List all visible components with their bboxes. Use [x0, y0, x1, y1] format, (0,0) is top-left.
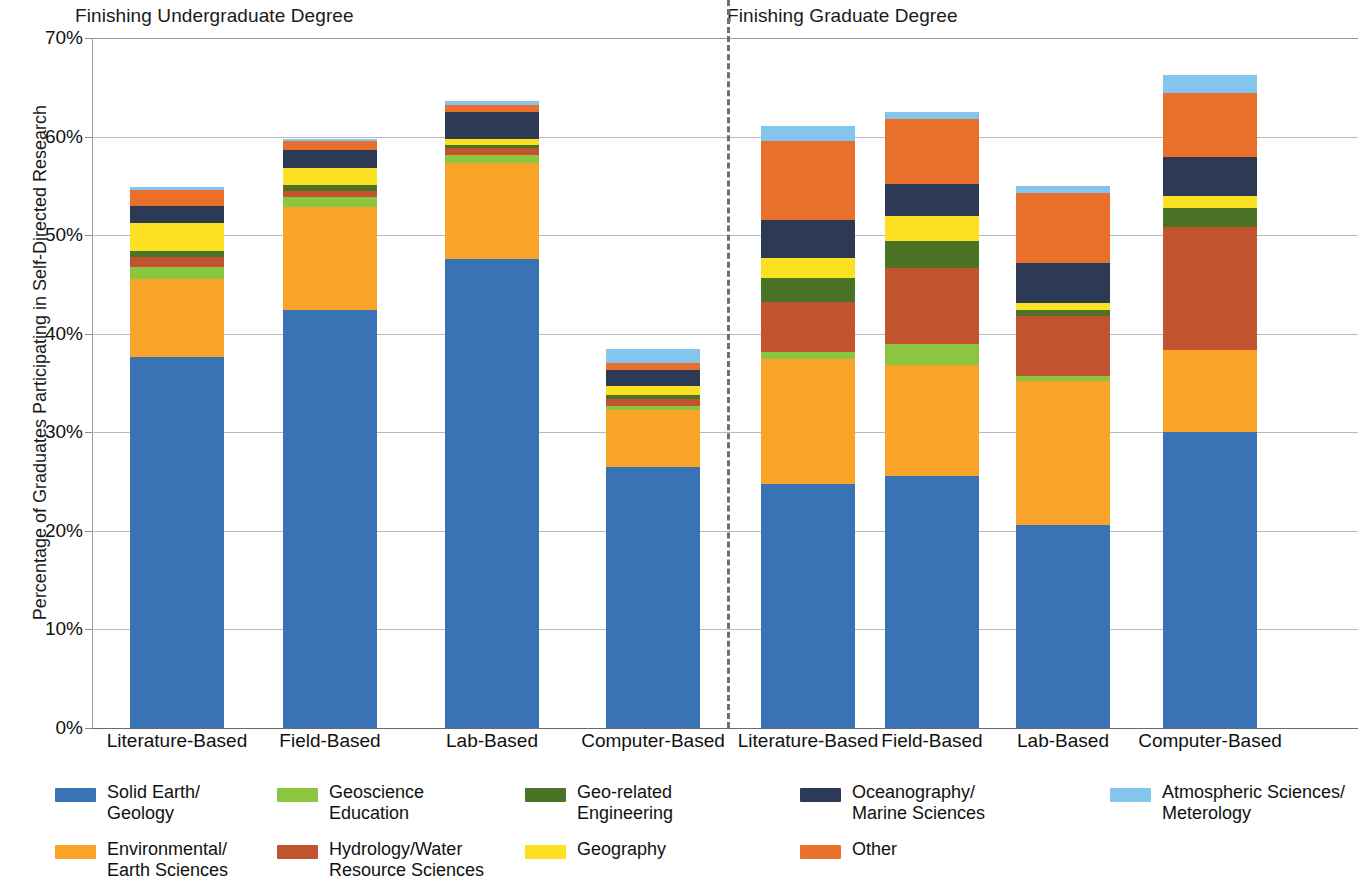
bar-segment-environmental-earth-sciences[interactable]	[283, 207, 377, 311]
bar-segment-hydrology-water-resource-sciences[interactable]	[445, 148, 539, 155]
bar-segment-oceanography-marine-sciences[interactable]	[283, 150, 377, 168]
legend-item-oceanography-marine-sciences[interactable]: Oceanography/ Marine Sciences	[800, 782, 985, 824]
bar-segment-geography[interactable]	[606, 386, 700, 395]
bar-6-field-based[interactable]	[885, 112, 979, 728]
bar-segment-solid-earth-geology[interactable]	[606, 467, 700, 728]
legend-label: Hydrology/Water Resource Sciences	[329, 839, 484, 881]
legend-label: Environmental/ Earth Sciences	[107, 839, 228, 881]
bar-segment-other[interactable]	[130, 190, 224, 206]
bar-segment-geography[interactable]	[130, 223, 224, 251]
bar-segment-oceanography-marine-sciences[interactable]	[885, 184, 979, 217]
bar-segment-solid-earth-geology[interactable]	[885, 476, 979, 728]
bar-segment-environmental-earth-sciences[interactable]	[606, 410, 700, 467]
bar-segment-other[interactable]	[445, 105, 539, 112]
bar-segment-geography[interactable]	[1163, 196, 1257, 208]
bar-segment-other[interactable]	[606, 363, 700, 370]
y-tick-label-50: 50%	[13, 224, 83, 246]
x-axis-label-8: Computer-Based	[1138, 730, 1282, 752]
bar-segment-oceanography-marine-sciences[interactable]	[606, 370, 700, 386]
y-tick-mark-40	[85, 334, 92, 335]
bar-segment-geoscience-education[interactable]	[885, 344, 979, 366]
legend-item-atmospheric-sciences-meterology[interactable]: Atmospheric Sciences/ Meterology	[1110, 782, 1345, 824]
y-tick-mark-50	[85, 235, 92, 236]
legend-item-hydrology-water-resource-sciences[interactable]: Hydrology/Water Resource Sciences	[277, 839, 484, 881]
bar-segment-geography[interactable]	[1016, 303, 1110, 310]
bar-segment-geo-related-engineering[interactable]	[885, 241, 979, 268]
bar-segment-hydrology-water-resource-sciences[interactable]	[1163, 227, 1257, 349]
bar-segment-geoscience-education[interactable]	[283, 197, 377, 207]
bar-segment-geography[interactable]	[283, 168, 377, 185]
bar-segment-environmental-earth-sciences[interactable]	[445, 163, 539, 259]
bar-segment-environmental-earth-sciences[interactable]	[1016, 381, 1110, 525]
bar-segment-atmospheric-sciences-meterology[interactable]	[761, 126, 855, 141]
bar-segment-geo-related-engineering[interactable]	[761, 278, 855, 303]
legend-swatch-icon	[55, 845, 96, 859]
bar-segment-hydrology-water-resource-sciences[interactable]	[885, 268, 979, 344]
x-axis-label-3: Lab-Based	[446, 730, 538, 752]
bar-segment-atmospheric-sciences-meterology[interactable]	[1163, 75, 1257, 94]
y-tick-label-40: 40%	[13, 323, 83, 345]
bar-segment-environmental-earth-sciences[interactable]	[1163, 350, 1257, 433]
y-tick-label-10: 10%	[13, 618, 83, 640]
bar-1-literature-based[interactable]	[130, 187, 224, 728]
y-tick-mark-60	[85, 137, 92, 138]
bar-segment-solid-earth-geology[interactable]	[445, 259, 539, 728]
bar-8-computer-based[interactable]	[1163, 75, 1257, 728]
bar-segment-atmospheric-sciences-meterology[interactable]	[885, 112, 979, 119]
x-axis-label-6: Field-Based	[881, 730, 982, 752]
bar-2-field-based[interactable]	[283, 139, 377, 728]
bar-segment-environmental-earth-sciences[interactable]	[761, 359, 855, 483]
bar-segment-geoscience-education[interactable]	[761, 352, 855, 359]
bar-segment-solid-earth-geology[interactable]	[761, 484, 855, 728]
legend-item-geoscience-education[interactable]: Geoscience Education	[277, 782, 424, 824]
bar-3-lab-based[interactable]	[445, 101, 539, 728]
bar-segment-hydrology-water-resource-sciences[interactable]	[606, 399, 700, 406]
bar-segment-other[interactable]	[283, 141, 377, 151]
legend-swatch-icon	[525, 845, 566, 859]
legend-item-environmental-earth-sciences[interactable]: Environmental/ Earth Sciences	[55, 839, 228, 881]
y-axis-title: Percentage of Graduates Participating in…	[30, 3, 51, 723]
legend-item-geo-related-engineering[interactable]: Geo-related Engineering	[525, 782, 673, 824]
x-axis-label-4: Computer-Based	[581, 730, 725, 752]
bar-segment-hydrology-water-resource-sciences[interactable]	[761, 302, 855, 352]
bar-segment-solid-earth-geology[interactable]	[130, 357, 224, 728]
legend-item-geography[interactable]: Geography	[525, 839, 666, 860]
group-title-graduate: Finishing Graduate Degree	[727, 5, 958, 27]
bar-segment-hydrology-water-resource-sciences[interactable]	[130, 257, 224, 267]
legend-item-other[interactable]: Other	[800, 839, 897, 860]
bar-segment-geoscience-education[interactable]	[130, 267, 224, 279]
bar-segment-geography[interactable]	[445, 139, 539, 146]
bar-segment-oceanography-marine-sciences[interactable]	[761, 220, 855, 257]
bar-5-literature-based[interactable]	[761, 126, 855, 728]
legend-swatch-icon	[525, 788, 566, 802]
bar-segment-other[interactable]	[1016, 193, 1110, 263]
bar-segment-other[interactable]	[1163, 93, 1257, 157]
group-title-undergraduate: Finishing Undergraduate Degree	[75, 5, 354, 27]
bar-4-computer-based[interactable]	[606, 349, 700, 728]
bar-segment-solid-earth-geology[interactable]	[283, 310, 377, 728]
bar-segment-environmental-earth-sciences[interactable]	[885, 365, 979, 475]
y-tick-mark-10	[85, 629, 92, 630]
bar-segment-hydrology-water-resource-sciences[interactable]	[1016, 316, 1110, 376]
bar-segment-geo-related-engineering[interactable]	[1163, 208, 1257, 228]
bar-segment-solid-earth-geology[interactable]	[1163, 432, 1257, 728]
bar-segment-oceanography-marine-sciences[interactable]	[1163, 157, 1257, 195]
y-tick-mark-70	[85, 38, 92, 39]
gridline-0	[92, 728, 1358, 729]
bar-segment-atmospheric-sciences-meterology[interactable]	[1016, 186, 1110, 193]
bar-segment-other[interactable]	[761, 141, 855, 221]
legend-item-solid-earth-geology[interactable]: Solid Earth/ Geology	[55, 782, 200, 824]
bar-7-lab-based[interactable]	[1016, 186, 1110, 728]
bar-segment-oceanography-marine-sciences[interactable]	[1016, 263, 1110, 303]
bar-segment-solid-earth-geology[interactable]	[1016, 525, 1110, 728]
bar-segment-geoscience-education[interactable]	[445, 155, 539, 163]
bar-segment-oceanography-marine-sciences[interactable]	[130, 206, 224, 224]
bar-segment-geography[interactable]	[761, 258, 855, 278]
x-axis-label-7: Lab-Based	[1017, 730, 1109, 752]
bar-segment-other[interactable]	[885, 119, 979, 184]
bar-segment-oceanography-marine-sciences[interactable]	[445, 112, 539, 139]
legend-swatch-icon	[800, 845, 841, 859]
bar-segment-geography[interactable]	[885, 216, 979, 241]
bar-segment-atmospheric-sciences-meterology[interactable]	[606, 349, 700, 364]
bar-segment-environmental-earth-sciences[interactable]	[130, 279, 224, 358]
